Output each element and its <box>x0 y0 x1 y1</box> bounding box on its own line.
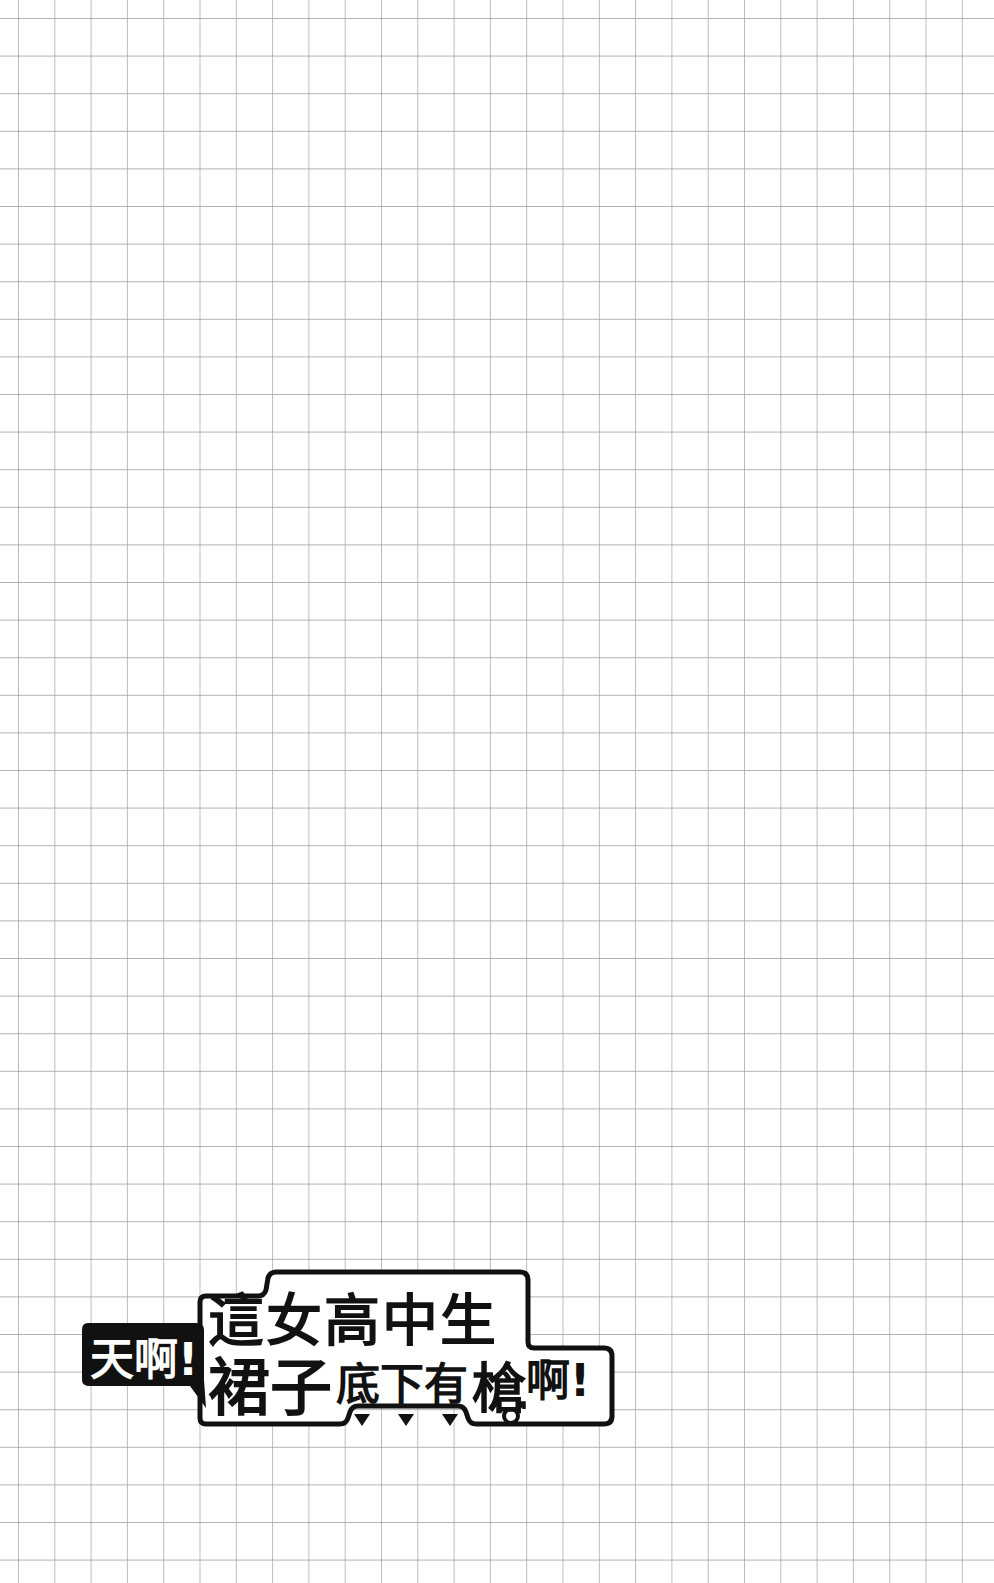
title-line-2-end: 啊! <box>526 1355 590 1406</box>
bubble-text: 天啊! <box>90 1334 198 1385</box>
title-line-2-small: 底下有 <box>336 1359 468 1410</box>
down-triangle-icons <box>354 1414 458 1426</box>
book-title-logo: 天啊! 這女高中生 裙子 底下有 槍 啊! <box>78 1268 618 1433</box>
title-line-2-large: 裙子 <box>208 1352 332 1425</box>
title-line-1: 這女高中生 <box>208 1288 498 1353</box>
